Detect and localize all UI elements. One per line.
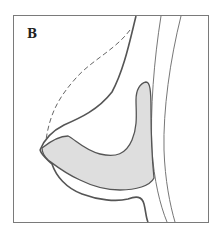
breast-diagram: B: [0, 0, 221, 229]
figure-frame: [14, 16, 209, 223]
panel-label: B: [27, 27, 37, 41]
